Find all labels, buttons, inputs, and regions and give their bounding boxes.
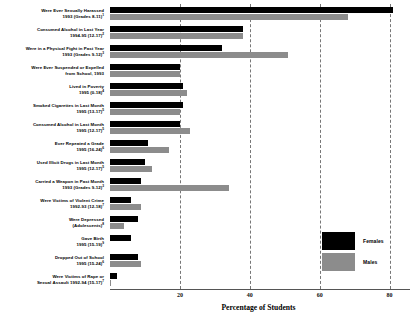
bar-females	[110, 235, 131, 241]
category-label-line2: 1995 (12-17)5	[76, 127, 104, 134]
legend-item: Females	[322, 232, 408, 250]
category-label: Gave Birth1995 (15-19)9	[0, 232, 107, 251]
category-label-line2: 1993 (Grades 9-12)3	[62, 184, 104, 191]
footnote-marker: 4	[102, 89, 104, 93]
bar-group	[110, 118, 407, 137]
bar-females	[110, 197, 131, 203]
category-label-line2: 1995 (15-19)9	[76, 241, 104, 248]
bar-females	[110, 83, 183, 89]
bar-group	[110, 213, 407, 232]
bar-females	[110, 7, 393, 13]
category-label: Carried a Weapon in Past Month1993 (Grad…	[0, 175, 107, 194]
category-label: Were Ever Sexually Harassed1993 (Grades …	[0, 4, 107, 23]
bar-group	[110, 4, 407, 23]
legend-item: Males	[322, 253, 408, 271]
footnote-marker: 6	[102, 146, 104, 150]
footnote-marker: 5	[102, 165, 104, 169]
category-label: Consumed Alcohol in Last Year1994-95 (12…	[0, 23, 107, 42]
bar-males	[110, 90, 187, 96]
bar-females	[110, 102, 183, 108]
bar-females	[110, 159, 145, 165]
x-tick-label: 40	[247, 292, 253, 298]
bar-females	[110, 140, 148, 146]
legend-swatch	[322, 232, 355, 250]
category-label-line2: Sexual Assault 1992-94 (15-17)7	[37, 279, 104, 286]
bar-group	[110, 61, 407, 80]
bar-group	[110, 175, 407, 194]
bar-females	[110, 254, 138, 260]
bar-group	[110, 194, 407, 213]
category-label: Smoked Cigarettes in Last Month1995 (13-…	[0, 99, 107, 118]
category-label: Lived in Poverty1995 (0-18)4	[0, 80, 107, 99]
footnote-marker: 7	[102, 203, 104, 207]
x-axis-line	[110, 289, 410, 290]
bar-males	[110, 14, 348, 20]
bar-group	[110, 42, 407, 61]
bar-males	[110, 52, 288, 58]
category-label-line2: 1995 (16-24)6	[76, 146, 104, 153]
bar-group	[110, 80, 407, 99]
bar-males	[110, 185, 229, 191]
chart-plot-wrapper: Were Ever Sexually Harassed1993 (Grades …	[0, 0, 415, 321]
category-label: Were in a Physical Fight in Past Year199…	[0, 42, 107, 61]
x-tick-label: 80	[387, 292, 393, 298]
bar-males	[110, 166, 152, 172]
footnote-marker: 3	[102, 51, 104, 55]
bar-females	[110, 121, 180, 127]
bar-group	[110, 23, 407, 42]
footnote-marker: 3	[102, 184, 104, 188]
bar-females	[110, 26, 243, 32]
x-axis-title: Percentage of Students	[110, 303, 407, 312]
category-label-column: Were Ever Sexually Harassed1993 (Grades …	[0, 4, 107, 289]
category-label-line2: 1992-93 (12-18)7	[70, 203, 104, 210]
bar-females	[110, 45, 222, 51]
category-label: Consumed Alcohol in Last Month1995 (12-1…	[0, 118, 107, 137]
category-label-line2: 1995 (15-24)6	[76, 260, 104, 267]
bar-males	[110, 128, 190, 134]
bar-females	[110, 64, 180, 70]
category-label: Ever Repeated a Grade1995 (16-24)6	[0, 137, 107, 156]
category-label: Were Victims of Rape orSexual Assault 19…	[0, 270, 107, 289]
footnote-marker: 5	[102, 127, 104, 131]
bar-group	[110, 156, 407, 175]
footnote-marker: 2	[102, 32, 104, 36]
bar-males	[110, 109, 180, 115]
category-label-line2: 1995 (0-18)4	[79, 89, 104, 96]
bar-females	[110, 178, 141, 184]
bar-males	[110, 223, 124, 229]
footnote-marker: 9	[102, 241, 104, 245]
bar-males	[110, 280, 111, 286]
bar-males	[110, 33, 243, 39]
category-label-line2: 1993 (Grades 9-12)3	[62, 51, 104, 58]
x-tick-label: 20	[177, 292, 183, 298]
bar-group	[110, 99, 407, 118]
legend-swatch	[322, 253, 355, 271]
bar-males	[110, 204, 141, 210]
footnote-marker: 7	[102, 279, 104, 283]
chart-legend: FemalesMales	[322, 232, 408, 274]
category-label-line2: (Adolescents)8	[72, 222, 104, 229]
category-label: Were Ever Suspended or Expelledfrom Scho…	[0, 61, 107, 80]
category-label-line2: from School, 1993	[65, 71, 104, 76]
bar-chart: Were Ever Sexually Harassed1993 (Grades …	[0, 0, 415, 321]
footnote-marker: 5	[102, 108, 104, 112]
category-label: Were Victims of Violent Crime1992-93 (12…	[0, 194, 107, 213]
category-label: Used Illicit Drugs in Last Month1995 (12…	[0, 156, 107, 175]
bar-group	[110, 137, 407, 156]
category-label-line2: 1993 (Grades 8-11)1	[62, 13, 104, 20]
category-label-line2: 1995 (12-17)5	[76, 165, 104, 172]
footnote-marker: 1	[102, 13, 104, 17]
footnote-marker: 6	[102, 260, 104, 264]
x-tick-label: 60	[317, 292, 323, 298]
footnote-marker: 8	[102, 222, 104, 226]
category-label-line2: 1995 (13-17)5	[76, 108, 104, 115]
bar-males	[110, 261, 141, 267]
bar-males	[110, 71, 180, 77]
category-label: Were Depressed(Adolescents)8	[0, 213, 107, 232]
bar-females	[110, 216, 138, 222]
legend-label: Females	[363, 238, 384, 244]
category-label: Dropped Out of School1995 (15-24)6	[0, 251, 107, 270]
legend-label: Males	[363, 259, 377, 265]
bar-males	[110, 147, 169, 153]
bar-females	[110, 273, 117, 279]
